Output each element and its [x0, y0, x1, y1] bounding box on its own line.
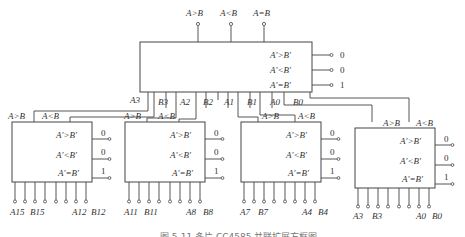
stage2-val-gt: 0 [214, 128, 219, 138]
stage3-pin-b-low: B4 [318, 207, 328, 217]
figure-caption: 图 5-11 多片 CC4585 并联扩展方框图 [160, 231, 317, 237]
stage1-pin-a-low: A12 [71, 207, 87, 217]
stage1-val-eq: 1 [101, 166, 106, 176]
top-output-lt: A<B [219, 8, 238, 18]
comparator-cascade-diagram: A>B A<B A=B A'>B' A'<B' A'=B' 0 0 1 A3 B… [0, 0, 465, 237]
stage1-port-eq: A'=B' [57, 168, 80, 178]
stage1-pin-b-high: B15 [30, 207, 45, 217]
stage3-pin-a-high: A7 [239, 207, 250, 217]
input-a3: A3 [129, 95, 140, 105]
top-output-eq: A=B [252, 8, 271, 18]
stage4-pin-b-high: B3 [372, 211, 382, 221]
stage3-val-gt: 0 [330, 128, 335, 138]
stage3-cascade-gt: A>B [261, 111, 280, 121]
cascade-wires [34, 92, 409, 122]
stage1-port-gt: A'>B' [55, 130, 78, 140]
stage2-input-pins [128, 182, 202, 203]
input-b3: B3 [158, 97, 168, 107]
port-lt-value: 0 [340, 65, 345, 75]
stage-comparator-1: A>B A<B A'>B' A'<B' A'=B' 0 0 1 A15 B15 … [7, 111, 111, 217]
input-a1: A1 [223, 97, 234, 107]
stage1-box [12, 122, 92, 182]
stage2-port-eq: A'=B' [171, 168, 194, 178]
input-b0: B0 [293, 97, 303, 107]
stage2-cascade-lt: A<B [157, 111, 176, 121]
stage3-box [241, 122, 321, 182]
stage3-input-pins [243, 182, 317, 203]
stage1-pin-a-high: A15 [9, 207, 25, 217]
stage3-val-lt: 0 [330, 147, 335, 157]
stage3-val-eq: 1 [330, 166, 335, 176]
port-gt-label: A'>B' [269, 50, 292, 60]
input-a2: A2 [179, 97, 190, 107]
input-a0: A0 [269, 97, 280, 107]
stage2-port-lt: A'<B' [169, 150, 192, 160]
stage4-val-gt: 0 [444, 134, 449, 144]
stage2-pin-b-low: B8 [203, 207, 213, 217]
top-output-pins: A>B A<B A=B [185, 8, 271, 42]
stage3-pin-b-high: B7 [258, 207, 268, 217]
stage4-cascade-gt: A>B [382, 118, 401, 128]
stage4-port-gt: A'>B' [399, 136, 422, 146]
stage-comparator-3: A>B A<B A'>B' A'<B' A'=B' 0 0 1 A7 B7 A4… [239, 111, 340, 217]
stage1-val-gt: 0 [101, 128, 106, 138]
port-lt-label: A'<B' [269, 65, 292, 75]
stage1-input-pins [14, 182, 88, 203]
stage4-val-eq: 1 [444, 172, 449, 182]
stage4-port-lt: A'<B' [399, 156, 422, 166]
stage4-pin-b-low: B0 [432, 211, 442, 221]
stage3-port-gt: A'>B' [285, 130, 308, 140]
stage1-cascade-gt: A>B [7, 111, 26, 121]
stage3-port-lt: A'<B' [285, 150, 308, 160]
stage2-pin-a-high: A11 [123, 207, 138, 217]
input-b1: B1 [247, 97, 257, 107]
stage4-pin-a-low: A0 [415, 211, 426, 221]
stage1-val-lt: 0 [101, 147, 106, 157]
stage2-pin-a-low: A8 [185, 207, 196, 217]
stage4-port-eq: A'=B' [401, 174, 424, 184]
stage3-pin-a-low: A4 [301, 207, 312, 217]
stage-comparator-4: A>B A<B A'>B' A'<B' A'=B' 0 0 1 A3 B3 A0… [352, 118, 454, 221]
stage4-input-pins [357, 188, 431, 208]
stage2-port-gt: A'>B' [169, 130, 192, 140]
stage2-val-eq: 1 [214, 166, 219, 176]
stage1-cascade-lt: A<B [41, 111, 60, 121]
port-eq-label: A'=B' [269, 80, 292, 90]
stage2-box [125, 122, 205, 182]
stage4-cascade-lt: A<B [415, 118, 434, 128]
stage4-val-lt: 0 [444, 153, 449, 163]
stage3-port-eq: A'=B' [287, 168, 310, 178]
stage2-cascade-gt: A>B [123, 111, 142, 121]
port-gt-value: 0 [340, 50, 345, 60]
top-output-gt: A>B [185, 8, 204, 18]
stage4-pin-a-high: A3 [352, 211, 363, 221]
top-comparator: A>B A<B A=B A'>B' A'<B' A'=B' 0 0 1 A3 B… [34, 8, 409, 122]
port-eq-value: 1 [340, 80, 345, 90]
stage-comparator-2: A>B A<B A'>B' A'<B' A'=B' 0 0 1 A11 B11 … [123, 111, 224, 217]
stage2-val-lt: 0 [214, 147, 219, 157]
stage3-cascade-lt: A<B [297, 111, 316, 121]
stage1-port-lt: A'<B' [55, 150, 78, 160]
stage4-box [355, 128, 435, 188]
input-b2: B2 [203, 97, 213, 107]
top-input-labels: A3 B3 A2 B2 A1 B1 A0 B0 [129, 95, 303, 107]
stage2-pin-b-high: B11 [144, 207, 158, 217]
stage1-pin-b-low: B12 [91, 207, 106, 217]
